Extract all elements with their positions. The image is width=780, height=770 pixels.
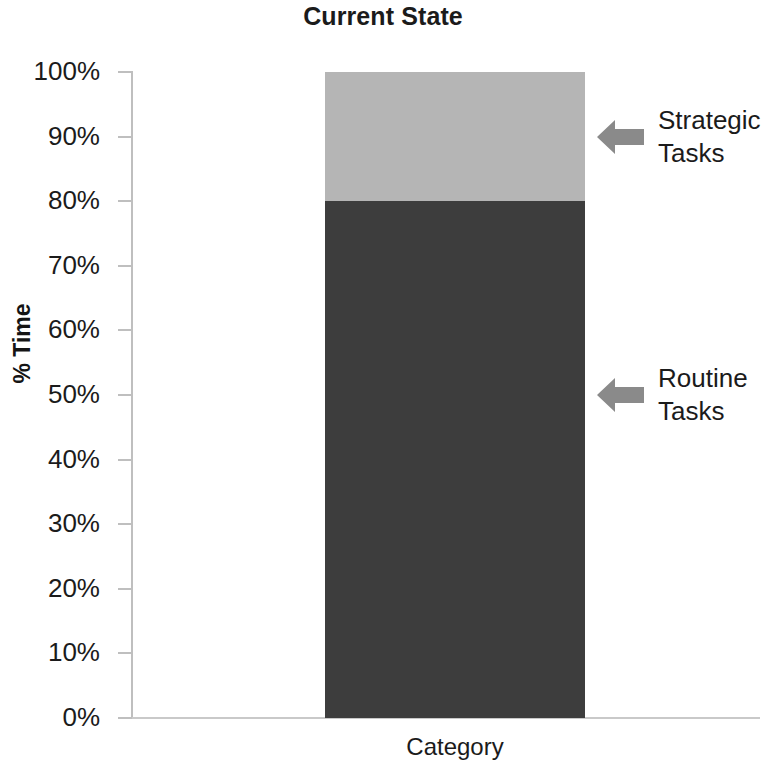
y-axis-tick-label: 40% [0, 443, 100, 475]
left-arrow-icon [597, 376, 644, 414]
annotation-strategic: Strategic Tasks [597, 104, 761, 170]
y-axis-tick-label: 100% [0, 55, 100, 87]
y-axis-tick-mark [118, 265, 131, 267]
chart-title-text: Current State [303, 2, 463, 31]
bar-segment-strategic [325, 72, 585, 201]
y-axis-tick-mark [118, 394, 131, 396]
y-axis-tick-mark [118, 136, 131, 138]
y-axis-tick-label: 80% [0, 184, 100, 216]
bar-segment-routine [325, 201, 585, 718]
y-axis-tick-label: 20% [0, 572, 100, 604]
annotation-routine-label: Routine Tasks [658, 362, 748, 428]
x-axis-label: Category [325, 733, 585, 761]
chart-canvas: Current State % Time 100%90%80%70%60%50%… [0, 0, 780, 770]
y-axis-tick-label: 70% [0, 249, 100, 281]
y-axis-line [131, 71, 133, 719]
y-axis-tick-mark [118, 523, 131, 525]
y-axis-tick-mark [118, 329, 131, 331]
chart-title: Current State [0, 2, 780, 31]
y-axis-tick-mark [118, 717, 131, 719]
left-arrow-icon [597, 118, 644, 156]
annotation-routine: Routine Tasks [597, 362, 748, 428]
y-axis-tick-mark [118, 588, 131, 590]
y-axis-tick-label: 90% [0, 120, 100, 152]
stacked-bar [325, 72, 585, 718]
y-axis-tick-label: 10% [0, 636, 100, 668]
y-axis-tick-label: 50% [0, 378, 100, 410]
y-axis-tick-label: 60% [0, 313, 100, 345]
y-axis-tick-mark [118, 652, 131, 654]
annotation-strategic-label: Strategic Tasks [658, 104, 761, 170]
y-axis-tick-label: 30% [0, 507, 100, 539]
y-axis-tick-mark [118, 459, 131, 461]
y-axis-tick-label: 0% [0, 701, 100, 733]
y-axis-tick-mark [118, 200, 131, 202]
y-axis-tick-mark [118, 71, 131, 73]
